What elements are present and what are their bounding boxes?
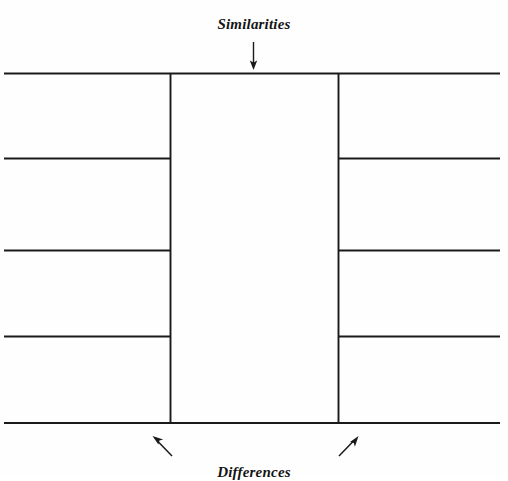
- right-column-cell-2[interactable]: [339, 159, 500, 250]
- left-column-cell-3[interactable]: [4, 251, 170, 336]
- right-column-cell-4[interactable]: [339, 337, 500, 423]
- left-column-cell-4[interactable]: [4, 337, 170, 423]
- middle-column-cell-1[interactable]: [171, 74, 338, 423]
- left-column-cell-1[interactable]: [4, 74, 170, 158]
- right-column-cell-3[interactable]: [339, 251, 500, 336]
- arrow-up-left-icon: [153, 436, 173, 456]
- arrow-up-right-icon: [339, 436, 359, 456]
- arrow-down-icon: [250, 42, 257, 70]
- differences-label: Differences: [0, 464, 508, 481]
- right-column-cell-1[interactable]: [339, 74, 500, 158]
- left-column-cell-2[interactable]: [4, 159, 170, 250]
